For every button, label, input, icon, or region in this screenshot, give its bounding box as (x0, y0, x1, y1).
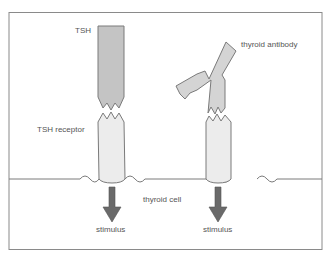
label-stimulus-right: stimulus (203, 225, 232, 234)
tsh-hormone-shape (98, 26, 124, 110)
thyroid-diagram: TSH TSH receptor thyroid antibody thyroi… (0, 0, 329, 262)
label-thyroid-antibody: thyroid antibody (241, 40, 297, 49)
tsh-receptor-left (98, 112, 125, 183)
tsh-receptor-right (206, 114, 231, 183)
label-stimulus-left: stimulus (96, 225, 125, 234)
label-thyroid-cell: thyroid cell (143, 195, 181, 204)
label-tsh: TSH (75, 26, 91, 35)
label-tsh-receptor: TSH receptor (37, 125, 85, 134)
